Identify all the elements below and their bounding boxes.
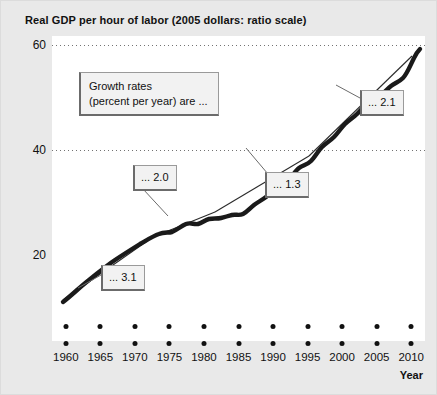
y-axis: 60 40 20 xyxy=(20,36,46,341)
plot-x-marker-1990 xyxy=(271,324,276,329)
plot-x-marker-1965 xyxy=(98,324,103,329)
plot-x-marker-1970 xyxy=(132,324,137,329)
annotation-rate-2-1: ... 2.1 xyxy=(360,90,404,116)
x-axis-title-wrap: Year xyxy=(52,341,425,381)
annotation-rate-3-1: ... 3.1 xyxy=(101,265,145,291)
plot-x-marker-1985 xyxy=(236,324,241,329)
annotation-rate-1-3: ... 1.3 xyxy=(265,172,309,198)
plot-x-marker-1995 xyxy=(305,324,310,329)
y-tick-label-60: 60 xyxy=(33,38,46,52)
plot-x-marker-1980 xyxy=(201,324,206,329)
plot-x-marker-1975 xyxy=(167,324,172,329)
plot-x-marker-2005 xyxy=(374,324,379,329)
y-tick-label-20: 20 xyxy=(33,248,46,262)
y-tick-label-40: 40 xyxy=(33,143,46,157)
legend-line-1: Growth rates xyxy=(89,79,208,94)
chart-figure: Real GDP per hour of labor (2005 dollars… xyxy=(0,0,437,395)
legend-line-2: (percent per year) are ... xyxy=(89,94,208,109)
x-axis-title: Year xyxy=(400,369,423,381)
plot-x-marker-1960 xyxy=(63,324,68,329)
chart-title: Real GDP per hour of labor (2005 dollars… xyxy=(25,14,307,26)
legend-callout: Growth rates (percent per year) are ... xyxy=(79,72,219,116)
annotation-rate-2-0: ... 2.0 xyxy=(133,165,177,191)
plot-x-marker-2010 xyxy=(409,324,414,329)
plot-x-marker-2000 xyxy=(340,324,345,329)
